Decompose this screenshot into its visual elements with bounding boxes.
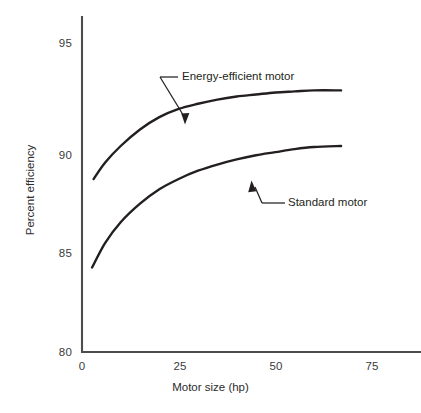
arrowhead-icon (181, 113, 189, 125)
standard-motor-label: Standard motor (288, 196, 367, 208)
energy-efficient-motor-leader (160, 77, 189, 125)
x-tick-label-75: 75 (365, 360, 378, 372)
energy-efficient-motor-label: Energy-efficient motor (182, 70, 294, 82)
y-tick-label-80: 80 (46, 346, 72, 358)
y-axis-title: Percent efficiency (24, 110, 36, 270)
standard-motor-leader (248, 181, 285, 204)
y-tick-label-90: 90 (46, 149, 72, 161)
x-tick-label-25: 25 (173, 360, 186, 372)
y-tick-label-95: 95 (46, 37, 72, 49)
x-axis-title: Motor size (hp) (0, 381, 421, 393)
arrowhead-icon (248, 181, 256, 193)
x-tick-label-50: 50 (269, 360, 282, 372)
y-tick-label-85: 85 (46, 247, 72, 259)
x-tick-label-0: 0 (79, 360, 86, 372)
chart-figure: 95 90 85 80 0 25 50 75 Motor size (hp) P… (0, 0, 421, 413)
